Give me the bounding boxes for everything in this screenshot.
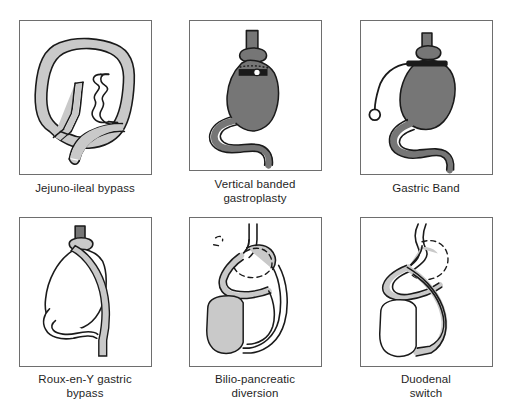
caption-gastric-band: Gastric Band [392, 182, 460, 196]
caption-bilio-pancreatic-diversion: Bilio-pancreatic diversion [215, 373, 295, 400]
panel-gastric-band: Gastric Band [340, 0, 512, 205]
panel-frame-jejuno-ileal-bypass [19, 20, 152, 175]
caption-duodenal-switch: Duodenal switch [401, 373, 451, 400]
illustration-bilio-pancreatic-diversion [190, 218, 321, 366]
caption-vertical-banded-gastroplasty: Vertical banded gastroplasty [215, 178, 296, 205]
caption-jejuno-ileal-bypass: Jejuno-ileal bypass [35, 182, 135, 196]
bariatric-procedures-figure: Jejuno-ileal bypass [0, 0, 512, 419]
panel-frame-gastric-band [360, 20, 493, 175]
panel-frame-bilio-pancreatic-diversion [189, 217, 322, 367]
panel-vertical-banded-gastroplasty: Vertical banded gastroplasty [170, 0, 340, 205]
illustration-jejuno-ileal-bypass [20, 21, 151, 174]
illustration-duodenal-switch [361, 218, 492, 366]
panel-frame-duodenal-switch [360, 217, 493, 367]
illustration-roux-en-y-gastric-bypass [20, 218, 151, 366]
caption-roux-en-y-gastric-bypass: Roux-en-Y gastric bypass [38, 373, 132, 400]
panel-frame-roux-en-y-gastric-bypass [19, 217, 152, 367]
panel-frame-vertical-banded-gastroplasty [189, 20, 322, 171]
panel-bilio-pancreatic-diversion: Bilio-pancreatic diversion [170, 205, 340, 419]
panel-duodenal-switch: Duodenal switch [340, 205, 512, 419]
illustration-vertical-banded-gastroplasty [190, 21, 321, 170]
panel-roux-en-y-gastric-bypass: Roux-en-Y gastric bypass [0, 205, 170, 419]
illustration-gastric-band [361, 21, 492, 174]
panel-jejuno-ileal-bypass: Jejuno-ileal bypass [0, 0, 170, 205]
